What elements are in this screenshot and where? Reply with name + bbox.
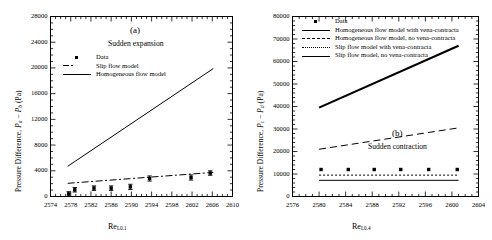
y-tick-label: 70000 (273, 35, 289, 42)
x-tick-label: 2576 (286, 201, 299, 208)
chart-panel-a: 0400080001200016000200002400028000 25742… (0, 0, 246, 240)
x-axis-label-b: ReL0.4 (352, 222, 371, 231)
x-tick-label: 2578 (64, 201, 77, 208)
panel-subtitle-b: Sudden contraction (368, 142, 427, 151)
y-tick-label: 20000 (273, 147, 289, 154)
y-tick-label: 30000 (273, 125, 289, 132)
line-dash-dot-icon (62, 62, 92, 71)
x-tick-label: 2610 (226, 201, 239, 208)
x-axis-label-a: ReL0.1 (108, 222, 127, 231)
y-tick-label: 28000 (31, 12, 47, 19)
data-marker (427, 168, 430, 171)
legend-label: Homogeneous flow model (92, 70, 166, 79)
marker-square-icon (301, 17, 331, 26)
y-tick-label: 80000 (273, 12, 289, 19)
line-solid-icon (62, 70, 92, 79)
legend-item-homog-vena-b: Homogeneous flow model with vena-contrac… (301, 26, 459, 35)
data-marker (399, 168, 402, 171)
x-tick-label: 2574 (44, 201, 57, 208)
y-tick-label: 50000 (273, 80, 289, 87)
x-tick-label: 2590 (125, 201, 138, 208)
line-dashed-icon (301, 34, 331, 43)
data-series-b (319, 46, 459, 181)
legend-item-homog-novena-b: Homogeneous flow model, no vena-contract… (301, 34, 459, 43)
data-marker (347, 168, 350, 171)
legend-item-data-a: Data (62, 53, 166, 62)
y-tick-label: 0 (44, 192, 47, 199)
legend-item-slip-a: Slip flow model (62, 62, 166, 71)
x-tick-label: 2604 (472, 201, 485, 208)
y-axis-label-a: Pressure Difference, Pa − Pb (Pa) (14, 90, 23, 192)
y-tick-label: 8000 (34, 141, 47, 148)
x-tick-label: 2600 (445, 201, 458, 208)
x-tick-label: 2582 (84, 201, 97, 208)
legend-b: Data Homogeneous flow model with vena-co… (301, 17, 459, 60)
legend-label: Slip flow model with vena-contracta (331, 43, 431, 52)
line-solid-icon (301, 51, 331, 60)
x-tick-label: 2580 (312, 201, 325, 208)
data-series-a (67, 69, 214, 197)
legend-item-data-b: Data (301, 17, 459, 26)
legend-label: Data (331, 17, 347, 26)
line-solid-thick-icon (301, 26, 331, 35)
data-marker (319, 168, 322, 171)
y-tick-label: 0 (286, 192, 289, 199)
y-tick-label: 60000 (273, 57, 289, 64)
y-tick-label: 4000 (34, 166, 47, 173)
series-line (68, 69, 214, 167)
panel-subtitle-a: Sudden expansion (108, 39, 163, 48)
marker-square-icon (62, 53, 92, 62)
data-marker (456, 168, 459, 171)
legend-item-slip-novena-b: Slip flow model, no vena-contracta (301, 51, 459, 60)
x-tick-label: 2584 (339, 201, 352, 208)
panel-tag-a: (a) (130, 25, 140, 35)
legend-label: Slip flow model, no vena-contracta (331, 51, 428, 60)
y-tick-label: 10000 (273, 170, 289, 177)
x-tick-label: 2594 (145, 201, 158, 208)
y-tick-label: 12000 (31, 115, 47, 122)
y-axis-label-b: Pressure Difference, Pc − Pd (Pa) (256, 91, 265, 192)
chart-panel-b: 0100002000030000400005000060000700008000… (246, 0, 492, 240)
legend-label: Homogeneous flow model, no vena-contract… (331, 34, 455, 43)
x-tick-label: 2598 (165, 201, 178, 208)
y-tick-label: 24000 (31, 38, 47, 45)
data-marker (373, 168, 376, 171)
panel-tag-b: (b) (392, 128, 403, 138)
x-tick-label: 2586 (105, 201, 118, 208)
legend-a: Data Slip flow model Homogeneous flow mo… (62, 53, 166, 79)
figure-root: 0400080001200016000200002400028000 25742… (0, 0, 492, 240)
x-tick-label: 2596 (419, 201, 432, 208)
y-tick-label: 20000 (31, 63, 47, 70)
line-dotted-icon (301, 43, 331, 52)
y-tick-label: 40000 (273, 102, 289, 109)
y-tick-label: 16000 (31, 89, 47, 96)
x-tick-label: 2592 (392, 201, 405, 208)
legend-item-homogeneous-a: Homogeneous flow model (62, 70, 166, 79)
x-tick-label: 2588 (366, 201, 379, 208)
legend-label: Data (92, 53, 108, 62)
x-tick-label: 2606 (206, 201, 219, 208)
legend-item-slip-vena-b: Slip flow model with vena-contracta (301, 43, 459, 52)
x-tick-label: 2602 (185, 201, 198, 208)
legend-label: Slip flow model (92, 62, 139, 71)
legend-label: Homogeneous flow model with vena-contrac… (331, 26, 459, 35)
